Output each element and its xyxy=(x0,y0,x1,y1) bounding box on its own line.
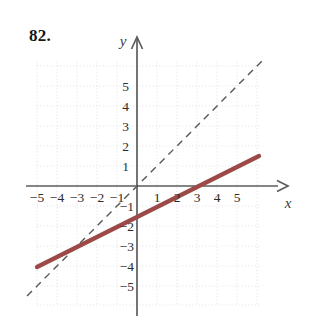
y-tick-label: −5 xyxy=(120,279,135,294)
solid-line-series xyxy=(37,156,259,267)
x-tick-label: −4 xyxy=(50,190,65,205)
y-axis xyxy=(132,37,143,316)
y-tick-label: 4 xyxy=(122,99,129,114)
y-tick-label: 3 xyxy=(122,119,129,134)
y-tick-label: 1 xyxy=(122,159,129,174)
dashed-line-series xyxy=(27,61,262,296)
y-tick-label: −2 xyxy=(120,219,134,234)
figure-page: 82. xyxy=(0,0,309,329)
x-axis-label: x xyxy=(284,195,292,211)
grid-lines xyxy=(37,62,260,305)
x-tick-label: −5 xyxy=(30,190,45,205)
x-tick-label: 4 xyxy=(214,190,221,205)
coordinate-plane-graph: −5 −4 −3 −2 −1 1 2 3 4 5 5 4 3 2 1 −1 −2… xyxy=(0,0,309,329)
x-tick-label: 5 xyxy=(234,190,241,205)
x-tick-label: −3 xyxy=(70,190,85,205)
y-tick-label: −4 xyxy=(120,259,135,274)
x-tick-label: 3 xyxy=(194,190,201,205)
x-tick-label: 1 xyxy=(154,190,161,205)
y-tick-label: 2 xyxy=(122,139,129,154)
y-axis-label: y xyxy=(118,33,127,49)
y-tick-label: 5 xyxy=(122,79,129,94)
x-tick-label: −2 xyxy=(90,190,104,205)
x-tick-labels: −5 −4 −3 −2 −1 1 2 3 4 5 xyxy=(30,190,241,205)
y-tick-label: −3 xyxy=(120,239,135,254)
x-tick-label: 2 xyxy=(174,190,181,205)
y-tick-label: −1 xyxy=(120,199,134,214)
